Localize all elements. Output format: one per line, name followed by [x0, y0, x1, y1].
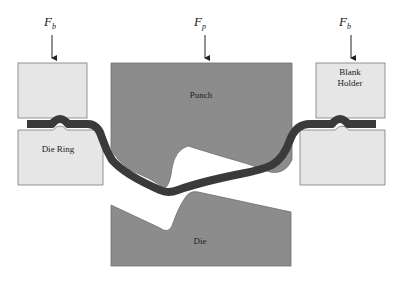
die [111, 192, 291, 266]
blank-holder-label-line1: Blank [339, 67, 361, 77]
force-center: F p [193, 14, 206, 58]
force-left: F b [43, 14, 56, 58]
die-ring-label: Die Ring [42, 144, 75, 154]
force-center-subscript: p [201, 22, 206, 31]
blank-holder-label-line2: Holder [338, 78, 363, 88]
right-die-ring [300, 126, 385, 185]
force-right: F b [338, 14, 351, 58]
die-label: Die [194, 236, 207, 246]
left-die-ring [18, 126, 103, 185]
force-right-subscript: b [347, 22, 351, 31]
force-left-subscript: b [52, 22, 56, 31]
left-blank-holder [18, 63, 87, 118]
stamping-diagram: F b F p F b Die Ring Blank Holder Punch … [0, 0, 400, 282]
punch-label: Punch [190, 90, 213, 100]
